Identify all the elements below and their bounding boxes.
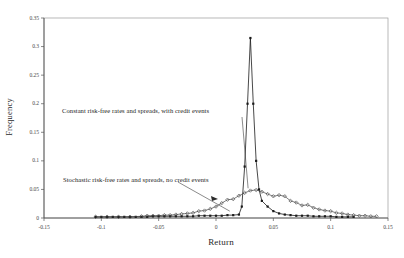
stochastic-series-label: Stochastic risk-free rates and spreads, … bbox=[63, 176, 209, 183]
series-line bbox=[96, 38, 354, 217]
plot-canvas bbox=[0, 0, 404, 258]
data-point bbox=[241, 205, 243, 207]
constant-series-leader-line bbox=[242, 117, 248, 188]
constant-series-label: Constant risk-free rates and spreads, wi… bbox=[62, 107, 209, 114]
data-point bbox=[258, 188, 260, 190]
data-point bbox=[249, 37, 251, 39]
data-point bbox=[209, 215, 211, 217]
data-point bbox=[301, 215, 303, 217]
data-point bbox=[252, 103, 254, 105]
data-point bbox=[335, 216, 337, 218]
data-point bbox=[244, 165, 246, 167]
series-stochastic bbox=[94, 188, 378, 218]
data-point bbox=[312, 215, 314, 217]
plot-frame bbox=[44, 18, 388, 218]
data-point bbox=[307, 215, 309, 217]
series-constant bbox=[95, 37, 355, 218]
data-point bbox=[341, 216, 343, 218]
stochastic-leader-arrowhead bbox=[211, 196, 218, 201]
data-point bbox=[272, 210, 274, 212]
data-point bbox=[318, 215, 320, 217]
data-point bbox=[284, 213, 286, 215]
data-point bbox=[238, 213, 240, 215]
data-point bbox=[215, 215, 217, 217]
data-point bbox=[330, 215, 332, 217]
data-point bbox=[261, 200, 263, 202]
data-point bbox=[198, 215, 200, 217]
chart-figure: Frequency Return 00.050.10.150.20.250.30… bbox=[0, 0, 404, 258]
data-point bbox=[289, 214, 291, 216]
data-point bbox=[255, 160, 257, 162]
data-point bbox=[232, 214, 234, 216]
data-point bbox=[203, 215, 205, 217]
data-point bbox=[221, 215, 223, 217]
stochastic-series-leader-line bbox=[178, 182, 230, 211]
data-point bbox=[226, 214, 228, 216]
data-point bbox=[192, 215, 194, 217]
data-point bbox=[278, 212, 280, 214]
data-point bbox=[246, 103, 248, 105]
data-point bbox=[267, 205, 269, 207]
data-point bbox=[324, 215, 326, 217]
data-point bbox=[295, 215, 297, 217]
